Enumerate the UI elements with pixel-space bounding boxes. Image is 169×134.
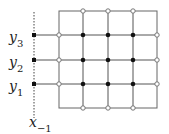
label-y1: y1: [9, 79, 23, 93]
grid-horizontal-lines: [34, 35, 157, 84]
lattice-diagram: [0, 0, 169, 134]
label-y2: y2: [9, 55, 23, 69]
label-y3: y3: [9, 30, 23, 44]
label-x-minus-1: x−1: [29, 115, 52, 129]
